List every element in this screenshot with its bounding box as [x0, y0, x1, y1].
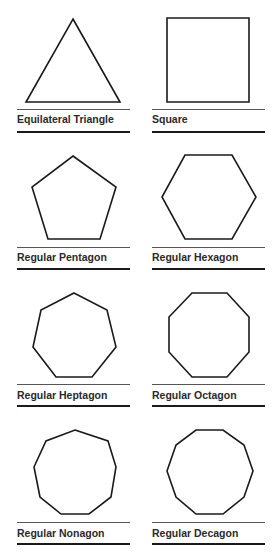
- regular-heptagon-shape: [33, 293, 116, 377]
- label-rule-top: [152, 247, 265, 248]
- label-rule-top: [17, 247, 130, 248]
- polygon-diagram: [0, 0, 278, 557]
- shape-label-pentagon: Regular Pentagon: [17, 251, 107, 263]
- label-rule-bottom: [17, 268, 130, 270]
- regular-decagon-shape: [167, 430, 253, 514]
- shape-label-square: Square: [152, 113, 188, 125]
- label-rule-bottom: [152, 268, 265, 270]
- regular-octagon-shape: [169, 293, 249, 377]
- label-rule-bottom: [152, 405, 265, 407]
- label-rule-bottom: [17, 131, 130, 133]
- label-rule-bottom: [17, 405, 130, 407]
- regular-hexagon-shape: [162, 155, 256, 239]
- equilateral-triangle-shape: [26, 19, 120, 102]
- regular-nonagon-shape: [34, 430, 116, 514]
- regular-pentagon-shape: [32, 156, 116, 239]
- shape-label-hexagon: Regular Hexagon: [152, 251, 238, 263]
- shape-label-triangle: Equilateral Triangle: [17, 113, 114, 125]
- shape-label-heptagon: Regular Heptagon: [17, 389, 107, 401]
- label-rule-top: [152, 109, 265, 110]
- shape-label-nonagon: Regular Nonagon: [17, 527, 105, 539]
- shape-label-decagon: Regular Decagon: [152, 527, 238, 539]
- label-rule-bottom: [152, 131, 265, 133]
- label-rule-top: [152, 384, 265, 385]
- label-rule-bottom: [17, 543, 130, 545]
- label-rule-top: [17, 109, 130, 110]
- label-rule-bottom: [152, 543, 265, 545]
- square-shape: [167, 18, 249, 102]
- label-rule-top: [17, 384, 130, 385]
- label-rule-top: [17, 522, 130, 523]
- label-rule-top: [152, 522, 265, 523]
- shape-label-octagon: Regular Octagon: [152, 389, 237, 401]
